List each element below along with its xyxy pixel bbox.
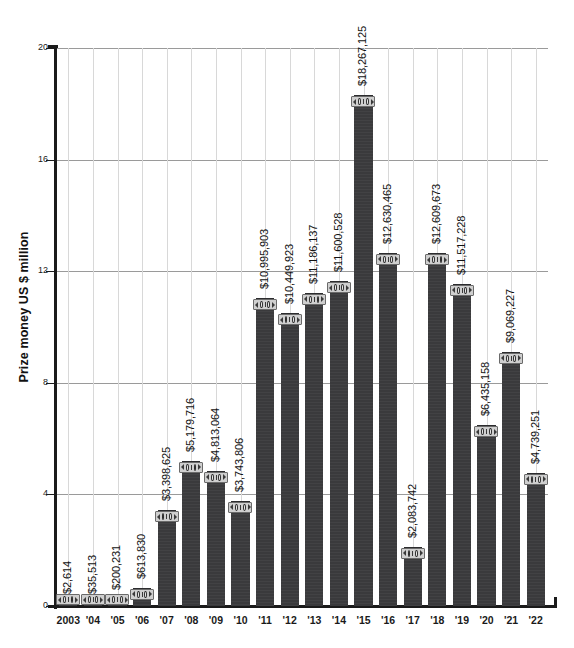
x-axis-label-12: '12	[277, 614, 302, 626]
y-tick-label-20: 20	[22, 42, 48, 52]
x-axis-label-11: '11	[253, 614, 278, 626]
bar-09[interactable]	[207, 471, 225, 606]
x-axis-label-20: '20	[474, 614, 499, 626]
bar-value-label: $35,513	[85, 555, 97, 594]
bar-slot: $10,995,903	[256, 48, 274, 606]
bar-12[interactable]	[281, 313, 299, 606]
bar-value-label: $5,179,716	[184, 397, 196, 451]
banknote-icon	[376, 254, 400, 265]
bar-20[interactable]	[477, 425, 495, 606]
bar-value-label: $613,830	[135, 534, 147, 579]
bar-11[interactable]	[256, 298, 274, 606]
bar-14[interactable]	[330, 281, 348, 606]
bar-13[interactable]	[305, 293, 323, 606]
bar-slot: $3,398,625	[158, 48, 176, 606]
banknote-icon	[253, 299, 277, 310]
prize-money-bar-chart: Prize money US $ million 048121620 $2,61…	[0, 0, 574, 648]
x-axis-label-15: '15	[351, 614, 376, 626]
bar-value-label: $6,435,158	[479, 362, 491, 416]
x-axis-label-21: '21	[499, 614, 524, 626]
banknote-icon	[474, 426, 498, 437]
bar-slot: $200,231	[108, 48, 126, 606]
bar-value-label: $2,614	[61, 561, 73, 594]
bar-08[interactable]	[182, 461, 200, 607]
bar-slot: $5,179,716	[182, 48, 200, 606]
bar-value-label: $10,995,903	[258, 229, 270, 289]
bar-value-label: $12,630,465	[381, 184, 393, 244]
banknote-icon	[302, 294, 326, 305]
x-axis-end-cap	[554, 597, 557, 608]
banknote-icon	[130, 589, 154, 600]
banknote-icon	[351, 96, 375, 107]
bar-slot: $10,449,923	[281, 48, 299, 606]
x-axis-label-06: '06	[130, 614, 155, 626]
banknote-icon	[179, 462, 203, 473]
bar-value-label: $4,739,251	[528, 410, 540, 464]
bar-value-label: $9,069,227	[504, 289, 516, 343]
bar-slot: $35,513	[84, 48, 102, 606]
banknote-icon	[204, 472, 228, 483]
bar-16[interactable]	[379, 253, 397, 606]
banknote-icon	[81, 594, 105, 605]
bar-value-label: $3,743,806	[233, 438, 245, 492]
bar-slot: $11,600,528	[330, 48, 348, 606]
x-axis-label-09: '09	[204, 614, 229, 626]
bar-value-label: $11,517,228	[454, 215, 466, 274]
bar-slot: $4,739,251	[527, 48, 545, 606]
bar-slot: $9,069,227	[502, 48, 520, 606]
banknote-icon	[228, 502, 252, 513]
bar-slot: $6,435,158	[477, 48, 495, 606]
bar-slot: $4,813,064	[207, 48, 225, 606]
y-tick-label-12: 12	[22, 265, 48, 275]
plot-area: 048121620 $2,614$35,513$200,231$613,830$…	[56, 48, 548, 606]
bar-slot: $12,630,465	[379, 48, 397, 606]
x-axis-label-14: '14	[327, 614, 352, 626]
bar-slot: $18,267,125	[354, 48, 372, 606]
bar-value-label: $3,398,625	[159, 447, 171, 501]
y-tick-label-16: 16	[22, 154, 48, 164]
banknote-icon	[278, 314, 302, 325]
bar-value-label: $10,449,923	[282, 244, 294, 304]
banknote-icon	[327, 282, 351, 293]
bar-value-label: $18,267,125	[356, 26, 368, 86]
bar-19[interactable]	[453, 284, 471, 606]
banknote-icon	[155, 511, 179, 522]
bar-slot: $2,614	[59, 48, 77, 606]
bar-slot: $11,186,137	[305, 48, 323, 606]
x-axis-label-19: '19	[450, 614, 475, 626]
x-axis-label-2003: 2003	[56, 614, 81, 626]
x-axis-label-13: '13	[302, 614, 327, 626]
bar-series: $2,614$35,513$200,231$613,830$3,398,625$…	[56, 48, 548, 606]
bar-slot: $3,743,806	[231, 48, 249, 606]
bar-slot: $613,830	[133, 48, 151, 606]
bar-slot: $12,609,673	[428, 48, 446, 606]
bar-slot: $11,517,228	[453, 48, 471, 606]
bar-18[interactable]	[428, 253, 446, 606]
bar-10[interactable]	[231, 501, 249, 606]
bar-value-label: $2,083,742	[405, 484, 417, 538]
bar-21[interactable]	[502, 352, 520, 606]
x-axis-label-07: '07	[154, 614, 179, 626]
x-axis-label-08: '08	[179, 614, 204, 626]
bar-value-label: $4,813,064	[208, 408, 220, 462]
banknote-icon	[401, 548, 425, 559]
y-tick-label-4: 4	[22, 488, 48, 498]
banknote-icon	[450, 285, 474, 296]
x-axis-label-10: '10	[228, 614, 253, 626]
x-axis-label-04: '04	[81, 614, 106, 626]
x-axis-label-17: '17	[400, 614, 425, 626]
bar-22[interactable]	[527, 473, 545, 606]
x-axis-label-05: '05	[105, 614, 130, 626]
banknote-icon	[524, 474, 548, 485]
banknote-icon	[56, 594, 80, 605]
bar-slot: $2,083,742	[404, 48, 422, 606]
banknote-icon	[105, 594, 129, 605]
x-axis-label-18: '18	[425, 614, 450, 626]
bar-15[interactable]	[354, 95, 372, 606]
y-tick-label-0: 0	[22, 600, 48, 610]
bar-07[interactable]	[158, 510, 176, 606]
x-axis-label-16: '16	[376, 614, 401, 626]
banknote-icon	[499, 353, 523, 364]
bar-value-label: $12,609,673	[430, 184, 442, 244]
y-tick-label-8: 8	[22, 377, 48, 387]
